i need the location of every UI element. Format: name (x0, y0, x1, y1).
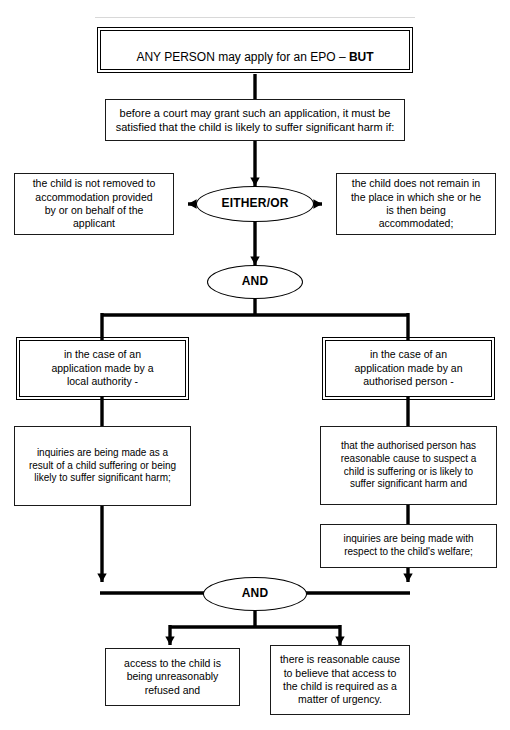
node-local-authority: in the case of an application made by a … (19, 340, 186, 397)
page-top-rule (95, 17, 415, 18)
node-ap-reasonable-cause-label: that the authorised person has reasonabl… (341, 440, 477, 491)
node-ap-inquiries: inquiries are being made with respect to… (320, 524, 497, 568)
node-ap-inquiries-label: inquiries are being made with respect to… (343, 533, 473, 559)
node-start-label: ANY PERSON may apply for an EPO – BUT (136, 35, 373, 66)
node-local-authority-label: in the case of an application made by a … (51, 348, 153, 388)
node-outcome-right: there is reasonable cause to believe tha… (270, 645, 410, 715)
node-branch-right: the child does not remain in the place i… (336, 173, 496, 235)
node-la-inquiries: inquiries are being made as a result of … (14, 426, 191, 506)
node-authorised-person-label: in the case of an application made by an… (355, 348, 463, 388)
node-and-bottom-label: AND (242, 586, 269, 601)
node-branch-left: the child is not removed to accommodatio… (14, 173, 174, 235)
node-la-inquiries-label: inquiries are being made as a result of … (29, 447, 176, 485)
node-start: ANY PERSON may apply for an EPO – BUT (100, 30, 410, 70)
node-outcome-left-label: access to the child is being unreasonabl… (124, 657, 221, 697)
node-and-top-label: AND (242, 274, 269, 289)
node-condition: before a court may grant such an applica… (105, 99, 405, 141)
node-either-or-label: EITHER/OR (221, 196, 288, 211)
node-condition-label: before a court may grant such an applica… (116, 106, 395, 134)
flowchart-canvas: ANY PERSON may apply for an EPO – BUT be… (0, 0, 510, 730)
node-branch-left-label: the child is not removed to accommodatio… (33, 177, 156, 231)
node-outcome-right-label: there is reasonable cause to believe tha… (280, 653, 400, 707)
node-outcome-left: access to the child is being unreasonabl… (105, 648, 240, 706)
node-ap-reasonable-cause: that the authorised person has reasonabl… (320, 426, 497, 505)
node-authorised-person: in the case of an application made by an… (325, 340, 492, 397)
node-and-bottom: AND (203, 577, 307, 611)
node-and-top: AND (207, 265, 303, 299)
node-branch-right-label: the child does not remain in the place i… (351, 177, 481, 231)
node-either-or: EITHER/OR (196, 186, 314, 222)
